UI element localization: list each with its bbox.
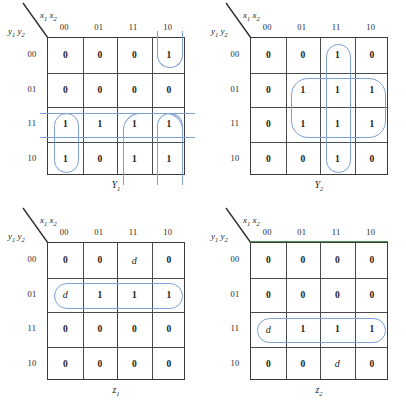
kmap-cell-r00-c11: 1 [320,38,355,73]
column-header-10: 10 [354,227,389,237]
kmap-cell-r01-c00: d [48,278,83,313]
column-header-00: 00 [47,22,82,32]
kmap-cell-r10-c11: 1 [320,142,355,177]
kmap-cell-r11-c01: 1 [286,107,321,142]
row-header-00: 00 [22,242,42,277]
kmap-cell-r00-c01: 0 [286,243,321,278]
kmap-cell-r00-c10: 1 [152,38,187,73]
kmap-grid: 00000000d11100d0 [250,242,388,380]
row-header-10: 10 [22,346,42,381]
kmap-cell-r10-c00: 1 [48,142,83,177]
kmap-cell-r11-c00: 0 [251,107,286,142]
kmap-cell-r01-c00: 0 [48,73,83,108]
kmap-cell-r10-c00: 0 [251,142,286,177]
kmap-figure-sheet: x1 x2y1 y2000111100001111000010000111110… [0,0,406,411]
kmap-caption-Y2: Y2 [250,180,388,192]
kmap-cell-r00-c00: 0 [48,243,83,278]
kmap-cell-r01-c01: 1 [83,278,118,313]
column-variable-label: x1 x2 [40,10,57,22]
kmap-cell-r10-c11: 0 [117,347,152,382]
kmap-cell-r00-c10: 0 [355,243,390,278]
kmap-cell-r01-c00: 0 [251,73,286,108]
column-header-00: 00 [250,227,285,237]
kmap-cell-r11-c11: 1 [320,312,355,347]
kmap-z2: x1 x2y1 y2000111100001111000000000d11100… [203,205,406,410]
kmap-cell-r10-c10: 0 [355,142,390,177]
kmap-cell-r11-c01: 0 [83,312,118,347]
column-header-11: 11 [116,22,151,32]
kmap-cell-r10-c01: 0 [83,347,118,382]
column-variable-label: x1 x2 [40,215,57,227]
kmap-cell-r11-c11: 1 [117,107,152,142]
kmap-cell-r10-c10: 0 [152,347,187,382]
kmap-cell-r00-c11: 0 [320,243,355,278]
row-header-11: 11 [225,311,245,346]
kmap-cell-r00-c00: 0 [251,243,286,278]
kmap-cell-r00-c00: 0 [48,38,83,73]
kmap-grid: 00d0d11100000000 [47,242,185,380]
kmap-cell-r10-c01: 0 [286,347,321,382]
kmap-z1: x1 x2y1 y2000111100001111000d0d111000000… [0,205,203,410]
column-header-10: 10 [354,22,389,32]
kmap-cell-r01-c10: 0 [152,73,187,108]
kmap-cell-r11-c10: 1 [152,107,187,142]
kmap-cell-r00-c11: d [117,243,152,278]
column-header-00: 00 [47,227,82,237]
kmap-cell-r00-c01: 0 [83,243,118,278]
row-header-01: 01 [225,72,245,107]
kmap-cell-r10-c01: 0 [83,142,118,177]
kmap-cell-r01-c00: 0 [251,278,286,313]
kmap-Y2: x1 x2y1 y2000111100001111000100111011100… [203,0,406,205]
kmap-cell-r10-c10: 1 [152,142,187,177]
row-header-01: 01 [22,72,42,107]
kmap-cell-r10-c11: 1 [117,142,152,177]
column-header-10: 10 [151,227,186,237]
kmap-caption-z1: z1 [47,385,185,397]
row-header-11: 11 [22,106,42,141]
kmap-cell-r01-c10: 1 [355,73,390,108]
row-header-11: 11 [225,106,245,141]
kmap-cell-r01-c10: 1 [152,278,187,313]
kmap-cell-r10-c01: 0 [286,142,321,177]
row-header-00: 00 [225,242,245,277]
kmap-cell-r11-c00: 1 [48,107,83,142]
kmap-cell-r11-c01: 1 [83,107,118,142]
column-header-01: 01 [82,227,117,237]
row-header-01: 01 [22,277,42,312]
kmap-cell-r01-c11: 0 [320,278,355,313]
kmap-cell-r01-c10: 0 [355,278,390,313]
kmap-cell-r01-c11: 0 [117,73,152,108]
column-header-01: 01 [285,227,320,237]
row-header-01: 01 [225,277,245,312]
kmap-cell-r00-c10: 0 [355,38,390,73]
kmap-cell-r11-c10: 1 [355,107,390,142]
kmap-cell-r01-c01: 0 [83,73,118,108]
kmap-cell-r11-c00: 0 [48,312,83,347]
kmap-cell-r00-c01: 0 [83,38,118,73]
kmap-cell-r00-c11: 0 [117,38,152,73]
kmap-cell-r00-c01: 0 [286,38,321,73]
column-header-11: 11 [319,227,354,237]
kmap-cell-r11-c10: 1 [355,312,390,347]
row-header-00: 00 [22,37,42,72]
kmap-Y1: x1 x2y1 y2000111100001111000010000111110… [0,0,203,205]
kmap-cell-r10-c00: 0 [48,347,83,382]
kmap-grid: 0001000011111011 [47,37,185,175]
row-header-10: 10 [22,141,42,176]
column-header-00: 00 [250,22,285,32]
kmap-cell-r11-c11: 1 [320,107,355,142]
row-header-10: 10 [225,346,245,381]
kmap-cell-r01-c01: 0 [286,278,321,313]
kmap-cell-r11-c00: d [251,312,286,347]
row-header-00: 00 [225,37,245,72]
kmap-cell-r10-c10: 0 [355,347,390,382]
kmap-cell-r11-c10: 0 [152,312,187,347]
column-header-01: 01 [82,22,117,32]
kmap-cell-r00-c00: 0 [251,38,286,73]
column-header-11: 11 [116,227,151,237]
column-header-11: 11 [319,22,354,32]
column-variable-label: x1 x2 [243,215,260,227]
kmap-cell-r01-c11: 1 [320,73,355,108]
kmap-cell-r11-c01: 1 [286,312,321,347]
kmap-cell-r01-c11: 1 [117,278,152,313]
